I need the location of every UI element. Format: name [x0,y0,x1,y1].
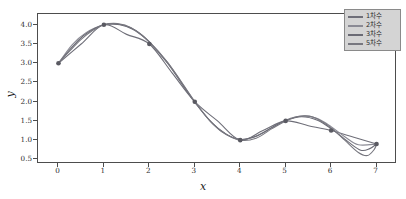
x-tick-label: 3 [191,166,196,175]
data-point-marker [56,61,61,66]
data-point-marker [147,42,152,47]
x-tick-label: 4 [237,166,242,175]
x-tick-label: 1 [101,166,106,175]
legend-item-label: 3차수 [366,30,382,39]
y-tick-label: 3.0 [0,58,37,67]
legend-item[interactable]: 5차수 [348,39,397,48]
legend-line-swatch [348,43,363,45]
x-axis-label: x [0,180,406,193]
data-point-marker [102,22,107,27]
data-point-marker [283,119,288,124]
x-tick-label: 0 [55,166,60,175]
chart-legend: 1차수2차수3차수5차수 [344,9,401,51]
legend-item[interactable]: 2차수 [348,21,397,30]
data-point-marker [192,99,197,104]
y-axis-label: y [4,75,17,115]
series-line [58,23,376,155]
legend-line-swatch [348,25,363,27]
x-tick-label: 2 [146,166,151,175]
legend-item[interactable]: 3차수 [348,30,397,39]
plot-area [37,13,396,163]
x-tick-label: 7 [373,166,378,175]
legend-line-swatch [348,34,363,36]
x-tick-label: 6 [328,166,333,175]
legend-line-swatch [348,16,363,18]
y-tick-label: 0.5 [0,154,37,163]
y-tick-label: 3.5 [0,39,37,48]
legend-item-label: 5차수 [366,39,382,48]
data-point-marker [374,142,379,147]
data-point-marker [329,128,334,133]
legend-item-label: 1차수 [366,12,382,21]
y-tick-label: 1.5 [0,115,37,124]
chart-figure: 0.51.01.52.02.53.03.54.0 01234567 y x 1차… [0,0,406,199]
y-tick-label: 1.0 [0,135,37,144]
series-line [58,24,376,151]
data-point-marker [238,138,243,143]
legend-item[interactable]: 1차수 [348,12,397,21]
y-tick-label: 4.0 [0,19,37,28]
legend-item-label: 2차수 [366,21,382,30]
x-tick-label: 5 [282,166,287,175]
